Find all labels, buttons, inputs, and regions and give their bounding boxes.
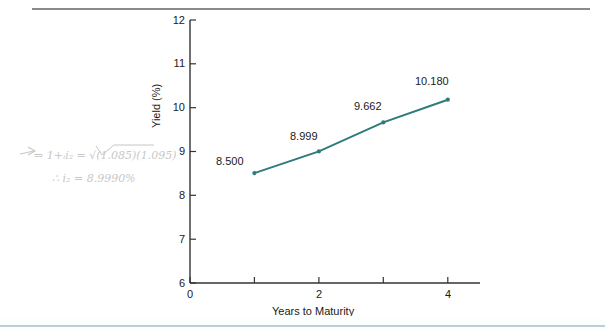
point-label-year-2: 8.999 bbox=[290, 131, 318, 142]
x-tick-marks bbox=[190, 277, 448, 283]
y-tick-label-12: 12 bbox=[163, 15, 185, 26]
handwritten-annotation: ⇒ 1+ᵢi₂ = √(1.085)(1.095) ∴ i₂ = 8.9990% bbox=[18, 142, 168, 204]
handwriting-line-2: ∴ i₂ = 8.9990% bbox=[52, 173, 136, 184]
yield-curve-line bbox=[254, 100, 447, 173]
point-label-year-3: 9.662 bbox=[354, 101, 382, 112]
x-tick-label-4: 4 bbox=[438, 289, 458, 300]
y-tick-label-11: 11 bbox=[163, 58, 185, 69]
x-tick-label-0: 0 bbox=[180, 289, 200, 300]
y-tick-marks bbox=[190, 20, 196, 283]
figure-page: 6 7 8 9 10 11 12 0 2 4 Yield (%) Years t… bbox=[0, 0, 605, 329]
y-tick-label-6: 6 bbox=[163, 278, 185, 289]
point-label-year-4: 10.180 bbox=[415, 76, 449, 87]
x-tick-label-2: 2 bbox=[309, 289, 329, 300]
handwriting-line-1: ⇒ 1+ᵢi₂ = √(1.085)(1.095) bbox=[34, 150, 176, 161]
y-tick-label-7: 7 bbox=[163, 234, 185, 245]
y-tick-label-10: 10 bbox=[163, 102, 185, 113]
point-label-year-1: 8.500 bbox=[216, 156, 244, 167]
bottom-band bbox=[0, 316, 605, 325]
y-axis-title: Yield (%) bbox=[151, 84, 162, 128]
bottom-divider-rule bbox=[0, 325, 605, 327]
